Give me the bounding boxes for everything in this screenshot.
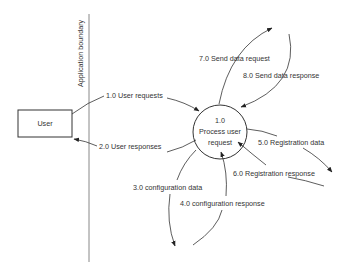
- flow-user-requests[interactable]: 1.0 User requests: [72, 91, 199, 114]
- data-flow-diagram: Application boundary User 1.0 Process us…: [0, 0, 348, 272]
- process-node[interactable]: 1.0 Process user request: [193, 105, 247, 159]
- user-entity-label: User: [37, 119, 53, 128]
- process-label-line2: request: [208, 138, 232, 147]
- flow-arrow: [169, 194, 175, 246]
- flow-user-responses[interactable]: 2.0 User responses: [74, 139, 196, 152]
- flow-label: 1.0 User requests: [106, 91, 163, 100]
- application-boundary-label: Application boundary: [76, 19, 85, 87]
- flow-label: 5.0 Registration data: [258, 138, 324, 147]
- flow-line: [177, 150, 196, 180]
- flow-line: [72, 96, 104, 114]
- process-label-line1: Process user: [199, 127, 242, 136]
- flow-label: 8.0 Send data response: [243, 71, 319, 80]
- flow-send-data-request[interactable]: 7.0 Send data request: [199, 28, 272, 104]
- flow-registration-response[interactable]: 6.0 Registration response: [233, 142, 324, 186]
- flow-arrow: [167, 98, 199, 111]
- flow-configuration-response[interactable]: 4.0 configuration response: [180, 152, 265, 245]
- flow-configuration-data[interactable]: 3.0 configuration data: [133, 150, 202, 246]
- flow-arrow: [74, 139, 97, 146]
- flow-line: [193, 210, 222, 245]
- flow-label: 2.0 User responses: [99, 142, 162, 151]
- flow-arrow: [219, 28, 272, 104]
- external-entity-user[interactable]: User: [18, 110, 72, 137]
- flow-label: 6.0 Registration response: [233, 169, 315, 178]
- flow-line: [288, 177, 324, 186]
- flow-label: 4.0 configuration response: [180, 199, 265, 208]
- flow-line: [247, 129, 277, 136]
- flow-send-data-response[interactable]: 8.0 Send data response: [241, 34, 319, 107]
- flow-line: [167, 140, 196, 152]
- flow-label: 7.0 Send data request: [199, 54, 270, 63]
- flow-label: 3.0 configuration data: [133, 183, 202, 192]
- flow-registration-data[interactable]: 5.0 Registration data: [247, 129, 332, 172]
- process-id: 1.0: [215, 116, 225, 125]
